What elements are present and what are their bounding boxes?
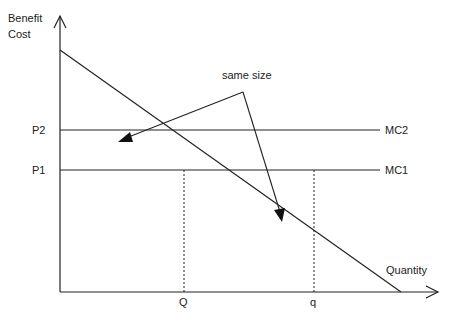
arrowhead-right — [274, 208, 285, 222]
y-axis-label-cost: Cost — [8, 28, 31, 40]
arrowhead-left — [118, 132, 133, 142]
annotation-arrow-right — [243, 92, 280, 212]
marginal-benefit-line — [60, 50, 401, 292]
q-label: q — [310, 296, 316, 308]
mc1-label: MC1 — [385, 164, 408, 176]
mc2-label: MC2 — [385, 124, 408, 136]
diagram-canvas: Benefit Cost Quantity MC2 P2 MC1 P1 Q q … — [0, 0, 454, 322]
p1-label: P1 — [32, 164, 45, 176]
y-axis-label-benefit: Benefit — [8, 12, 42, 24]
annotation-text: same size — [222, 69, 272, 81]
x-axis-label: Quantity — [386, 264, 427, 276]
p2-label: P2 — [32, 124, 45, 136]
Q-label: Q — [179, 296, 188, 308]
annotation-arrow-left — [126, 92, 243, 138]
